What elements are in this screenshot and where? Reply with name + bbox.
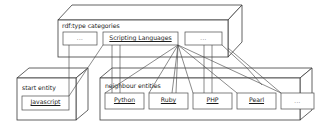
neighbour-node-pearl[interactable] xyxy=(237,93,276,109)
category-node-ellipsis-left[interactable] xyxy=(63,32,97,45)
start-entity-node-javascript[interactable] xyxy=(22,96,69,110)
category-node-ellipsis-right[interactable] xyxy=(185,32,222,45)
categories-box-top-face xyxy=(58,5,242,20)
start-entity-box-3d xyxy=(17,68,88,120)
neighbour-node-python[interactable] xyxy=(105,93,144,109)
categories-box-3d xyxy=(58,5,242,57)
category-node-scripting-languages[interactable] xyxy=(103,32,178,45)
neighbour-node-ellipsis[interactable] xyxy=(281,93,314,109)
diagram-canvas: rdf:type categories ... Scripting Langua… xyxy=(0,0,319,129)
neighbour-node-ruby[interactable] xyxy=(149,93,188,109)
neighbour-node-php[interactable] xyxy=(193,93,232,109)
neighbour-box-top-face xyxy=(100,68,312,78)
